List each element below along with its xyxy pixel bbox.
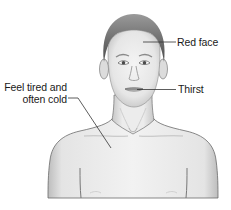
- label-thirst: Thirst: [178, 83, 204, 95]
- human-figure-illustration: [0, 0, 231, 210]
- symptom-diagram: Red face Thirst Feel tired and often col…: [0, 0, 231, 210]
- face: [108, 30, 160, 107]
- label-tired-cold: Feel tired and often cold: [4, 81, 67, 105]
- label-red-face: Red face: [177, 36, 218, 48]
- label-tired-cold-line-2: often cold: [4, 93, 67, 105]
- label-tired-cold-line-1: Feel tired and: [4, 81, 67, 93]
